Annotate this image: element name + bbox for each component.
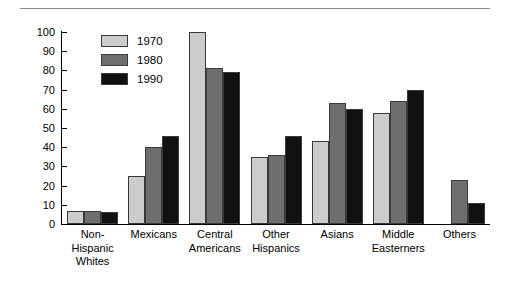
x-category-label: Other Hispanics [245, 228, 306, 255]
y-tick-label: 90 [43, 45, 55, 57]
x-category-label: Asians [307, 228, 368, 242]
bar-chart: Percentage 0102030405060708090100 Non- H… [0, 0, 506, 297]
legend-label: 1970 [137, 35, 163, 47]
bar-group [434, 32, 485, 224]
bar-group [189, 32, 240, 224]
y-tick-label: 20 [43, 180, 55, 192]
legend-label: 1980 [137, 54, 163, 66]
bar-group [373, 32, 424, 224]
x-category-label: Central Americans [184, 228, 245, 255]
bar [162, 136, 179, 224]
bar [101, 212, 118, 224]
bar [268, 155, 285, 224]
y-tick-label: 10 [43, 199, 55, 211]
bar [312, 141, 329, 224]
legend-label: 1990 [137, 73, 163, 85]
y-tick-label: 60 [43, 103, 55, 115]
y-tick-label: 50 [43, 122, 55, 134]
y-tick-label: 70 [43, 84, 55, 96]
bar [451, 180, 468, 224]
bar [285, 136, 302, 224]
bar [390, 101, 407, 224]
x-axis-category-labels: Non- Hispanic WhitesMexicansCentral Amer… [62, 228, 490, 292]
x-axis-line [61, 224, 490, 225]
x-category-label: Mexicans [123, 228, 184, 242]
legend-item: 1970 [101, 33, 196, 49]
bar [346, 109, 363, 224]
bar [329, 103, 346, 224]
bar [128, 176, 145, 224]
bar [145, 147, 162, 224]
legend-swatch [101, 35, 128, 47]
x-category-label: Non- Hispanic Whites [62, 228, 123, 269]
bar [373, 113, 390, 224]
legend-swatch [101, 73, 128, 85]
y-tick-mark [61, 224, 67, 225]
y-tick-label: 40 [43, 141, 55, 153]
y-tick-label: 0 [49, 218, 55, 230]
top-rule-divider [20, 8, 490, 9]
legend: 197019801990 [101, 33, 196, 90]
bar [251, 157, 268, 224]
bar [84, 211, 101, 224]
y-tick-label: 80 [43, 64, 55, 76]
y-axis-tick-labels: 0102030405060708090100 [20, 32, 55, 224]
x-category-label: Others [429, 228, 490, 242]
bar-group [251, 32, 302, 224]
bar [206, 68, 223, 224]
legend-swatch [101, 54, 128, 66]
bar [223, 72, 240, 224]
bar [407, 90, 424, 224]
bar-group [312, 32, 363, 224]
x-category-label: Middle Easterners [368, 228, 429, 255]
y-tick-label: 30 [43, 160, 55, 172]
bar [67, 211, 84, 224]
legend-item: 1990 [101, 71, 196, 87]
y-tick-label: 100 [37, 26, 55, 38]
bar [468, 203, 485, 224]
legend-item: 1980 [101, 52, 196, 68]
